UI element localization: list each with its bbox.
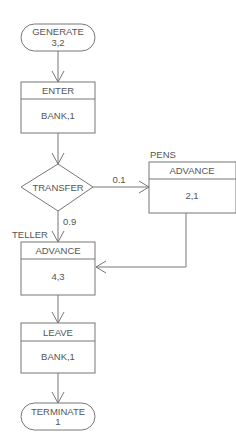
edge-pens-teller — [96, 213, 186, 273]
generate-operand: 3,2 — [51, 37, 64, 48]
generate-block: GENERATE 3,2 — [21, 24, 95, 51]
generate-label: GENERATE — [32, 26, 84, 37]
leave-header: LEAVE — [43, 327, 73, 338]
enter-header: ENTER — [42, 85, 74, 96]
teller-block: TELLER ADVANCE 4,3 — [12, 229, 95, 295]
edge-teller-leave — [52, 295, 64, 323]
probability-label-teller: 0.9 — [63, 216, 76, 227]
teller-name-label: TELLER — [12, 229, 48, 240]
enter-block: ENTER BANK,1 — [21, 82, 95, 133]
pens-body: 2,1 — [185, 190, 198, 201]
enter-body: BANK,1 — [41, 110, 75, 121]
teller-body: 4,3 — [51, 271, 64, 282]
leave-block: LEAVE BANK,1 — [21, 323, 95, 373]
pens-header: ADVANCE — [169, 165, 214, 176]
terminate-operand: 1 — [55, 416, 60, 427]
pens-name-label: PENS — [150, 149, 176, 160]
leave-body: BANK,1 — [41, 351, 75, 362]
edge-leave-terminate — [52, 373, 64, 403]
edge-transfer-pens: 0.1 — [93, 174, 149, 193]
probability-label-pens: 0.1 — [112, 174, 125, 185]
transfer-block: TRANSFER — [21, 164, 93, 211]
teller-header: ADVANCE — [35, 245, 80, 256]
edge-generate-enter — [52, 51, 64, 82]
flowchart-canvas: GENERATE 3,2 ENTER BANK,1 TRANSFER 0.1 P… — [0, 0, 236, 448]
transfer-label: TRANSFER — [32, 182, 83, 193]
terminate-block: TERMINATE 1 — [21, 403, 95, 430]
edge-transfer-teller: 0.9 — [52, 211, 76, 242]
pens-block: PENS ADVANCE 2,1 — [149, 149, 236, 213]
edge-enter-transfer — [52, 133, 64, 164]
